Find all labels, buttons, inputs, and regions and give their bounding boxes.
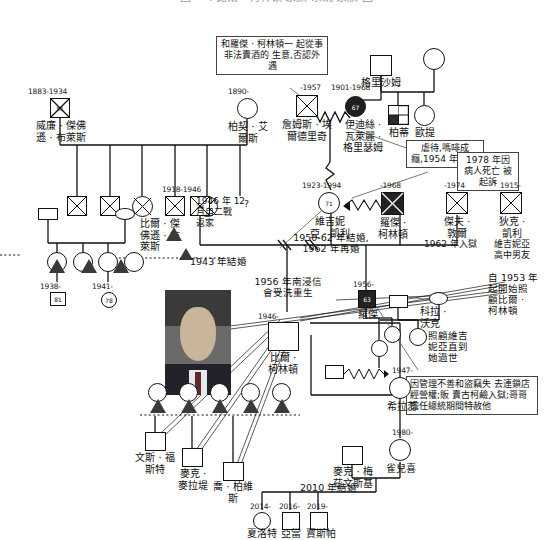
person-node-child-1941[interactable]: 78: [101, 292, 117, 308]
year-label-jeff-dwire: -1974: [444, 182, 465, 190]
person-name-william-blythe: 威廉 · 傑佛 遜 · 布萊斯: [13, 120, 109, 143]
roger-jr-child-node[interactable]: [371, 340, 388, 357]
person-name-hillary: 希拉蕊: [380, 401, 424, 413]
year-label-virginia: 1923-1994: [302, 182, 341, 190]
year-label-bill-blythe-jr: 1918-1946: [162, 186, 201, 194]
note-nursed: 照顧維吉 妮亞直到 她過世: [428, 330, 488, 363]
person-name-bill-clinton: 比爾 · 柯林頓: [250, 352, 316, 375]
person-node-virginia[interactable]: 71: [318, 192, 340, 214]
year-label-birchie: 1890-: [228, 88, 249, 96]
age-label: 67: [346, 103, 365, 110]
note-bootleg: 和羅傑 · 柯林頓一 起從事非法賣酒的 生意,否認外遇: [216, 36, 328, 75]
pregnancy-loss-triangle-icon: [180, 398, 198, 414]
person-node-grisham-spouse[interactable]: [423, 48, 445, 70]
person-node-hillary[interactable]: [389, 377, 411, 399]
cora-child-node[interactable]: [409, 328, 427, 346]
label-jailed-1962: 1962 年入獄: [424, 239, 477, 250]
person-node-grisham[interactable]: [370, 55, 392, 76]
person-name-roger-jr: 羅傑: [350, 309, 386, 321]
note-roger-jr: 因管理不善和盜竊失 去連鎖店經營權;販 賣古柯鹼入獄;哥哥 擔任總統期間特赦他: [406, 376, 538, 415]
person-node-otie[interactable]: [414, 105, 435, 126]
year-label-charlotte: 2014-: [250, 503, 271, 511]
label-married-2010: 2010 年結婚: [300, 482, 357, 493]
year-label-william-blythe: 1883-1934: [28, 88, 67, 96]
deceased-cross-icon: [50, 98, 70, 118]
year-label-james-eldridge: -1957: [300, 84, 321, 92]
year-label-roger-clinton: -1968: [380, 182, 401, 190]
year-label-hillary: 1947-: [392, 367, 413, 375]
deceased-cross-icon: [165, 196, 185, 216]
pregnancy-loss-triangle-icon: [80, 258, 98, 274]
pregnancy-loss-triangle-icon: [112, 258, 130, 274]
person-node-child-1938[interactable]: 81: [50, 292, 66, 306]
deceased-cross-icon: [67, 196, 87, 216]
year-label-chelsea: 1980-: [392, 429, 413, 437]
label-married-1943: 1943 年結婚: [190, 256, 247, 267]
conflict-zigzag-icon: [344, 368, 388, 380]
pregnancy-loss-triangle-icon: [149, 398, 167, 414]
relative-node-circle[interactable]: [115, 208, 135, 220]
year-label-child-1941: 1941-: [92, 283, 113, 291]
age-label: 81: [51, 296, 65, 303]
year-label-aidan: 2016-: [279, 503, 300, 511]
person-node-cora-spouse[interactable]: [389, 295, 408, 308]
label-unknown-marker: ?: [244, 198, 249, 209]
deceased-cross-icon: [132, 196, 153, 217]
label-married-1950-62: 1950-62 年結婚, 1962 年再婚: [266, 232, 396, 254]
pregnancy-loss-triangle-icon: [211, 398, 229, 414]
deceased-cross-icon: [381, 192, 404, 215]
person-name-otie: 歐提: [404, 127, 446, 139]
person-node-mack-mclarty[interactable]: [182, 448, 203, 467]
person-name-cora-walker: 科拉 · 沃克: [420, 306, 472, 329]
person-node-chelsea[interactable]: [389, 439, 411, 461]
person-node-joe-purvis[interactable]: [223, 462, 244, 481]
label-baptized-1956: 1956 年南浸信 會受洗重生: [238, 276, 338, 298]
quadrant-divider-icon: [388, 105, 409, 125]
year-label-bill-clinton: 1946-: [258, 313, 279, 321]
pregnancy-loss-triangle-icon: [48, 258, 66, 274]
person-node-cora-walker[interactable]: [429, 292, 448, 305]
age-label: 78: [102, 297, 116, 304]
note-caretaker: 自 1953 年 起開始照 顧比爾 · 柯林頓: [488, 272, 544, 316]
bill-clinton-portrait: [165, 290, 231, 395]
year-label-child-1938: 1938-: [40, 283, 61, 291]
label-hs-boyfriend: 維吉妮亞 高中男友: [484, 239, 540, 261]
year-label-dick-kelley: 1915-: [500, 182, 521, 190]
person-node-vince-foster[interactable]: [145, 432, 166, 451]
person-name-jasper: 賈斯帕: [298, 528, 344, 540]
deceased-cross-icon: [446, 192, 468, 214]
person-name-dick-kelley: 狄克 · 凱利: [488, 216, 536, 239]
person-name-joe-purvis: 喬 · 柏維 斯: [204, 481, 262, 504]
person-node-marc[interactable]: [342, 446, 363, 465]
roger-jr-spouse-node[interactable]: [384, 326, 401, 343]
person-node-bill-clinton[interactable]: [268, 322, 299, 351]
year-label-roger-jr: 1956-: [353, 281, 374, 289]
portrait-face: [180, 307, 217, 362]
age-label: 63: [359, 296, 375, 303]
pregnancy-loss-triangle-icon: [242, 398, 260, 414]
deceased-cross-icon: [296, 95, 318, 117]
pregnancy-loss-triangle-icon: [165, 226, 183, 242]
year-label-jasper: 2019-: [307, 503, 328, 511]
pregnancy-loss-triangle-icon: [273, 398, 291, 414]
person-node-edith[interactable]: 67: [345, 96, 366, 117]
person-node-birchie[interactable]: [237, 98, 258, 119]
person-name-jeff-dwire: 傑夫 · 敦爾: [432, 216, 482, 239]
age-label: 71: [319, 200, 339, 207]
relative-node-square[interactable]: [38, 208, 58, 220]
hillary-parent-node[interactable]: [325, 365, 344, 379]
person-node-roger-jr[interactable]: 63: [358, 290, 376, 308]
deceased-cross-icon: [500, 192, 522, 214]
person-name-grisham: 格里沙姆: [352, 77, 410, 89]
